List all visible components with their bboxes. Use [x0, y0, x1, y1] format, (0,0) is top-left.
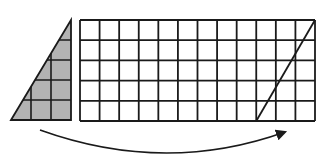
rectangle-grid — [80, 20, 315, 121]
arrow-path — [40, 130, 285, 153]
diagonal-line — [256, 20, 315, 121]
diagram-canvas — [0, 0, 328, 160]
shaded-triangle — [11, 20, 71, 120]
curved-arrow-icon — [40, 130, 285, 153]
